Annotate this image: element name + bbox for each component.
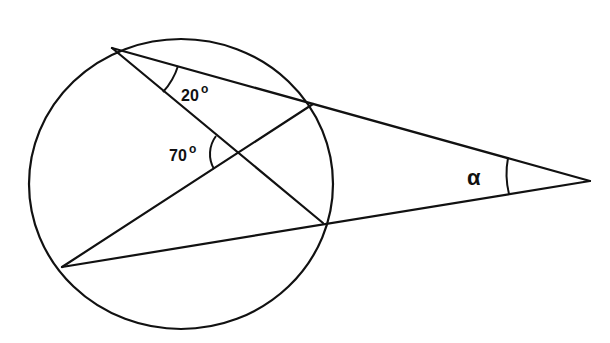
angle-label-20: 20: [181, 87, 199, 104]
circle-secant-diagram: 20 o 70 o α: [0, 0, 610, 343]
degree-mark-70: o: [189, 142, 196, 156]
secant-lower: [62, 181, 590, 267]
degree-mark-20: o: [201, 82, 208, 96]
chord-a-c: [112, 48, 323, 223]
angle-label-70: 70: [169, 147, 187, 164]
chord-d-b: [62, 104, 313, 267]
angle-label-alpha: α: [467, 165, 481, 190]
angle-arc-alpha: [507, 158, 509, 194]
angle-arc-70: [210, 136, 216, 169]
circle: [29, 39, 333, 329]
angle-arc-20: [163, 66, 178, 92]
